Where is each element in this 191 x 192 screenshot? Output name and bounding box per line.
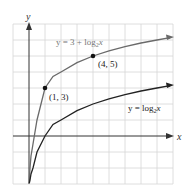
point-1-3-label: (1, 3) [49, 92, 69, 102]
upper-curve-label: y = 3 + log2x [56, 37, 103, 48]
point-1-3 [43, 86, 48, 91]
lower-curve-label: y = log2x [128, 103, 161, 114]
y-axis-label: y [25, 11, 31, 22]
point-4-5 [91, 54, 96, 59]
y-axis-arrow-icon [26, 22, 32, 30]
log-graph: x y (1, 3) (4, 5) y = 3 + log2x y = log2… [0, 0, 191, 192]
x-axis-label: x [176, 131, 182, 142]
point-4-5-label: (4, 5) [98, 59, 118, 69]
